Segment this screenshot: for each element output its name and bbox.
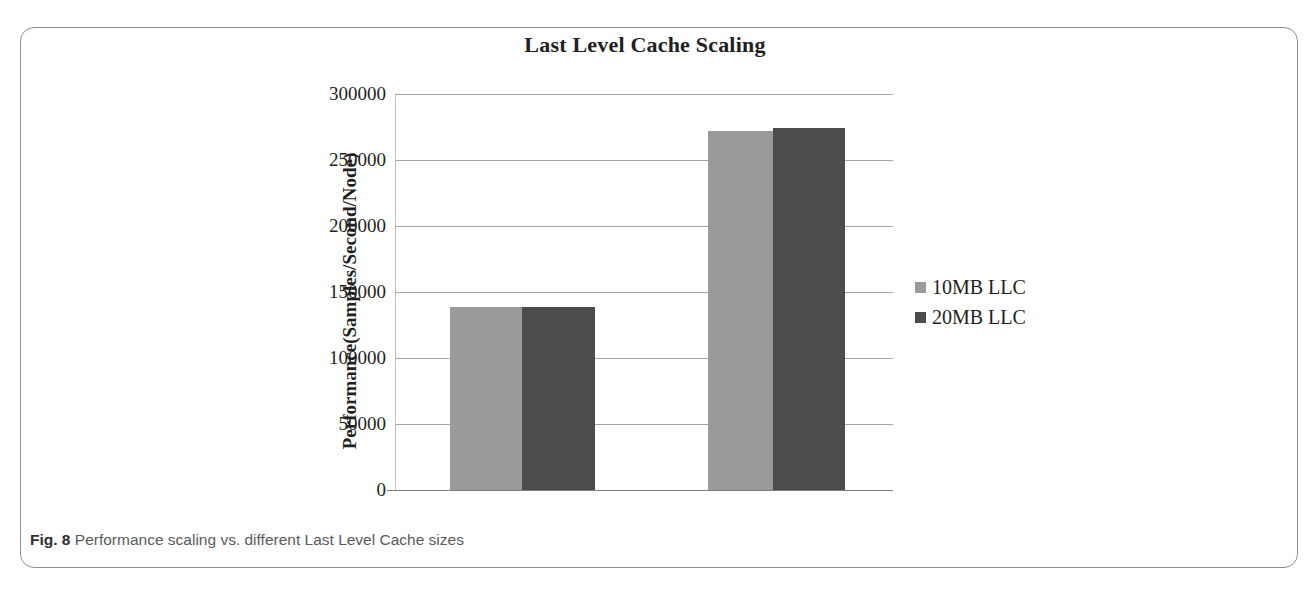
- y-axis-title: Performance(Samples/Second/Node): [339, 101, 361, 501]
- chart-legend: 10MB LLC 20MB LLC: [915, 272, 1026, 332]
- figure-caption-label: Fig. 8: [30, 531, 70, 548]
- bar-2sockets4cores-20mb-llc: [522, 307, 595, 490]
- bar-2sockets8cores-10mb-llc: [708, 131, 773, 490]
- y-axis-tick-label: 100000: [286, 347, 386, 369]
- y-axis-tick-label: 200000: [286, 215, 386, 237]
- legend-label: 20MB LLC: [932, 306, 1026, 329]
- bar-2sockets4cores-10mb-llc: [450, 307, 522, 490]
- y-axis-tick-label: 50000: [286, 413, 386, 435]
- gridline: [395, 94, 893, 95]
- x-axis-line: [387, 490, 893, 491]
- plot-area: 2sockets,4cores 2sockets,8cores: [395, 94, 893, 490]
- legend-swatch-icon: [915, 312, 926, 323]
- y-axis-tick-label: 0: [286, 479, 386, 501]
- y-axis-ticks: 300000 250000 200000 150000 100000 50000…: [278, 94, 386, 490]
- legend-label: 10MB LLC: [932, 276, 1026, 299]
- figure-caption-text: Performance scaling vs. different Last L…: [70, 531, 463, 548]
- bar-2sockets8cores-20mb-llc: [773, 128, 845, 490]
- y-axis-tick-label: 300000: [286, 83, 386, 105]
- figure-caption: Fig. 8 Performance scaling vs. different…: [30, 531, 464, 549]
- chart-title: Last Level Cache Scaling: [395, 32, 895, 58]
- y-axis-tick-label: 150000: [286, 281, 386, 303]
- legend-swatch-icon: [915, 282, 926, 293]
- legend-item-20mb-llc: 20MB LLC: [915, 302, 1026, 332]
- legend-item-10mb-llc: 10MB LLC: [915, 272, 1026, 302]
- y-axis-tick-label: 250000: [286, 149, 386, 171]
